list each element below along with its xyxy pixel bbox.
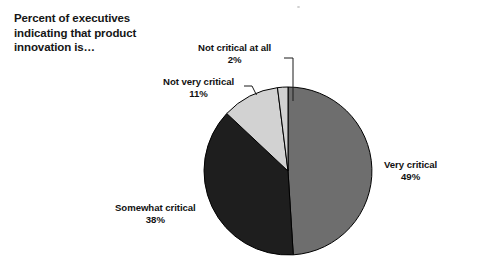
pie-label-value: 11% <box>163 88 234 100</box>
pie-label-not-very-critical: Not very critical 11% <box>163 76 234 100</box>
pie-label-name: Not very critical <box>163 76 234 87</box>
chart-canvas: Percent of executives indicating that pr… <box>0 0 482 260</box>
pie-label-value: 38% <box>115 214 196 226</box>
pie-label-value: 2% <box>198 54 271 66</box>
pie-label-name: Somewhat critical <box>115 202 196 213</box>
pie-slice-very-critical[interactable] <box>288 87 372 255</box>
pie-label-very-critical: Very critical 49% <box>384 159 437 183</box>
pie-label-not-critical-at-all: Not critical at all 2% <box>198 42 271 66</box>
pie-chart <box>0 0 482 260</box>
pie-label-somewhat-critical: Somewhat critical 38% <box>115 202 196 226</box>
pie-label-name: Not critical at all <box>198 42 271 53</box>
pie-label-name: Very critical <box>384 159 437 170</box>
pie-label-value: 49% <box>384 171 437 183</box>
